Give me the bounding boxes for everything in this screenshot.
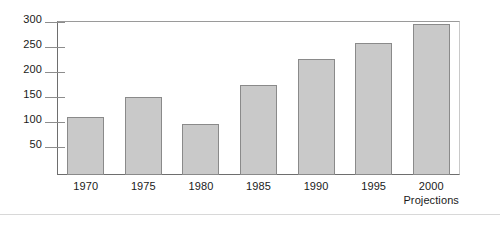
x-axis-label-1990: 1990 — [286, 180, 346, 192]
x-axis-label-2000: 2000 — [401, 180, 461, 192]
x-axis-label-1980: 1980 — [171, 180, 231, 192]
x-axis-label-1995: 1995 — [344, 180, 404, 192]
x-axis: 1970 1975 1980 1985 1990 1995 2000 Proje… — [0, 0, 500, 226]
bar-chart-figure: 300 250 200 150 100 50 — [0, 0, 500, 226]
projections-annotation: Projections — [391, 194, 471, 206]
bottom-divider — [0, 214, 500, 215]
x-axis-label-1975: 1975 — [113, 180, 173, 192]
x-axis-label-1985: 1985 — [229, 180, 289, 192]
x-axis-label-1970: 1970 — [56, 180, 116, 192]
